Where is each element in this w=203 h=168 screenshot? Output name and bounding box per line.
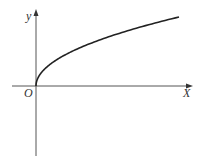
chart-canvas: y O X [0, 0, 203, 168]
y-axis-arrow-icon [34, 9, 39, 16]
y-axis-label: y [25, 9, 32, 23]
x-axis-label: X [182, 86, 191, 100]
origin-label: O [24, 86, 33, 100]
sqrt-curve [36, 17, 179, 86]
